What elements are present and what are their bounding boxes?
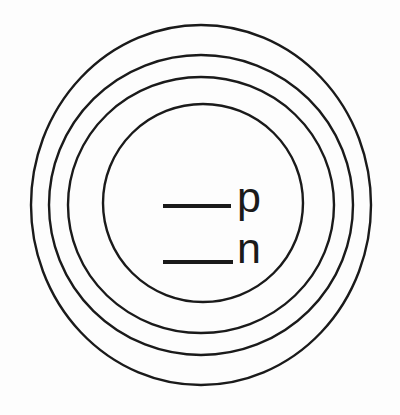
- inner-shell-circle: [103, 104, 303, 302]
- neutron-level-label: n: [237, 224, 261, 272]
- concentric-shells-diagram: p n: [0, 0, 400, 415]
- diagram-canvas: p n: [0, 0, 400, 415]
- proton-level-label: p: [237, 173, 261, 221]
